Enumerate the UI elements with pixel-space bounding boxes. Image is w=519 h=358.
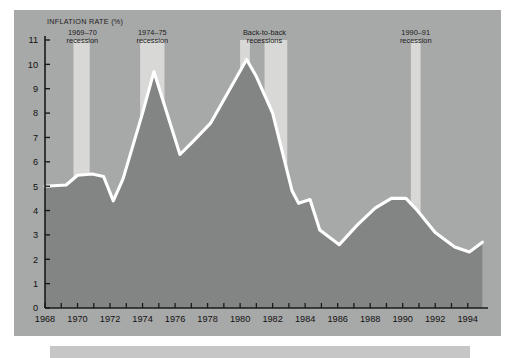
y-tick-label: 0	[33, 303, 38, 313]
inflation-rate-figure: 0123456789101119681970197219741976197819…	[0, 0, 519, 358]
y-tick-label: 7	[33, 133, 38, 143]
y-tick-label: 3	[33, 230, 38, 240]
x-tick-label: 1980	[230, 314, 250, 324]
recession-band-label: recession	[400, 36, 432, 45]
x-tick-label: 1970	[67, 314, 87, 324]
y-tick-label: 6	[33, 157, 38, 167]
recession-band-label: recession	[136, 36, 168, 45]
x-tick-label: 1972	[100, 314, 120, 324]
y-tick-label: 5	[33, 182, 38, 192]
y-tick-label: 2	[33, 255, 38, 265]
y-axis-title: INFLATION RATE (%)	[47, 17, 123, 26]
y-tick-label: 10	[28, 60, 38, 70]
caption-strip	[50, 346, 470, 358]
y-tick-label: 9	[33, 84, 38, 94]
y-tick-label: 4	[33, 206, 38, 216]
x-tick-label: 1992	[425, 314, 445, 324]
x-tick-label: 1974	[132, 314, 152, 324]
x-tick-label: 1968	[35, 314, 55, 324]
x-tick-label: 1990	[392, 314, 412, 324]
x-tick-label: 1984	[295, 314, 315, 324]
y-tick-label: 8	[33, 108, 38, 118]
x-tick-label: 1982	[262, 314, 282, 324]
recession-band-label: recession	[67, 36, 99, 45]
recession-band-label: recessions	[247, 36, 283, 45]
inflation-rate-chart: 0123456789101119681970197219741976197819…	[14, 10, 501, 336]
chart-panel: 0123456789101119681970197219741976197819…	[14, 10, 501, 336]
x-tick-label: 1986	[327, 314, 347, 324]
x-tick-label: 1976	[165, 314, 185, 324]
y-tick-label: 11	[28, 35, 38, 45]
y-tick-label: 1	[33, 279, 38, 289]
x-tick-label: 1988	[360, 314, 380, 324]
x-tick-label: 1978	[197, 314, 217, 324]
x-tick-label: 1994	[458, 314, 478, 324]
